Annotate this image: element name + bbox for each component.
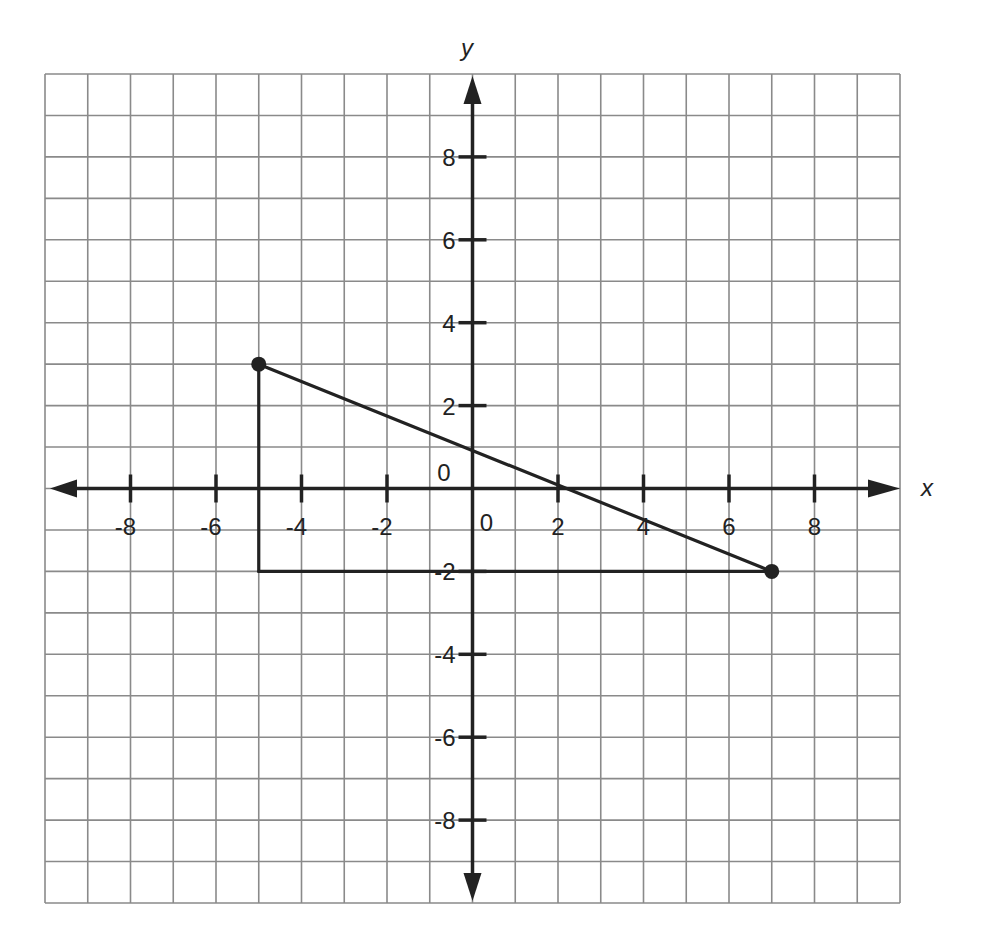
coordinate-plane: -8-6-4-22468-8-6-4-2246800 x y [0,0,982,947]
x-tick-label: 8 [808,513,821,540]
y-tick-label: 2 [442,393,455,420]
y-tick-label: 4 [442,310,455,337]
origin-label-y: 0 [437,459,450,486]
y-axis-down-arrow-icon [464,873,482,901]
data-point [251,357,266,372]
x-tick-label: 6 [722,513,735,540]
x-tick-label: -6 [200,513,221,540]
y-tick-label: -4 [434,641,455,668]
y-axis-label: y [459,34,475,61]
y-tick-label: -8 [434,807,455,834]
y-axis-up-arrow-icon [464,76,482,104]
x-tick-label: -4 [286,513,307,540]
x-axis-right-arrow-icon [868,480,900,498]
origin-label-x: 0 [480,509,493,536]
y-tick-label: 6 [442,227,455,254]
x-tick-label: -8 [115,513,136,540]
x-axis-label: x [920,474,934,501]
x-tick-label: 2 [551,513,564,540]
y-tick-label: -6 [434,724,455,751]
x-axis-left-arrow-icon [50,480,77,498]
x-tick-label: -2 [371,513,392,540]
y-tick-label: 8 [442,144,455,171]
data-point [764,564,779,579]
